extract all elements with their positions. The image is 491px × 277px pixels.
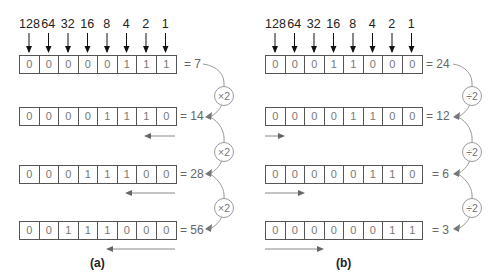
bit-cell: 0: [59, 56, 79, 73]
bit-row: 0 0 0 0 1 1 0 0: [265, 107, 423, 126]
bit-cell: 0: [325, 166, 345, 183]
bit-cell: 0: [59, 108, 79, 125]
bit-cell: 0: [20, 56, 40, 73]
bit-cell: 1: [383, 166, 403, 183]
bit-cell: 1: [98, 108, 118, 125]
bit-cell: 1: [364, 108, 384, 125]
bit-cell: 0: [325, 108, 345, 125]
bit-cell: 0: [118, 222, 138, 239]
bit-cell: 0: [344, 222, 364, 239]
multiply-by-two-icon: ×2: [214, 198, 234, 218]
bit-cell: 0: [79, 56, 99, 73]
bit-cell: 0: [403, 166, 423, 183]
bit-row: 0 0 0 1 1 1 0 0: [19, 165, 177, 184]
bit-row: 0 0 0 0 0 1 1 0: [265, 165, 423, 184]
bit-cell: 0: [266, 108, 286, 125]
bit-cell: 1: [403, 222, 423, 239]
decimal-value: = 24: [426, 55, 450, 74]
bit-cell: 0: [20, 166, 40, 183]
bit-row: 0 0 0 1 1 0 0 0: [265, 55, 423, 74]
caption-a: (a): [90, 256, 105, 270]
bit-cell: 0: [305, 56, 325, 73]
bit-cell: 0: [79, 108, 99, 125]
bit-cell: 0: [157, 166, 177, 183]
bit-cell: 1: [118, 56, 138, 73]
bit-cell: 0: [286, 222, 306, 239]
divide-by-two-icon: ÷2: [462, 142, 482, 162]
caption-b: (b): [336, 256, 351, 270]
bit-cell: 0: [98, 56, 118, 73]
bit-cell: 1: [79, 222, 99, 239]
bit-cell: 0: [266, 166, 286, 183]
bit-cell: 0: [325, 222, 345, 239]
bit-cell: 1: [59, 222, 79, 239]
bit-cell: 0: [137, 166, 157, 183]
bit-row: 0 0 0 0 0 1 1 1: [19, 55, 177, 74]
bit-cell: 0: [40, 166, 60, 183]
decimal-value: = 3: [432, 221, 449, 240]
panel-b-divide: 128 64 32 16 8 4 2 1: [246, 0, 491, 277]
bit-cell: 1: [157, 56, 177, 73]
bit-cell: 1: [344, 108, 364, 125]
decimal-value: = 14: [180, 107, 204, 126]
bit-cell: 1: [137, 56, 157, 73]
bit-cell: 0: [305, 222, 325, 239]
bit-cell: 0: [40, 108, 60, 125]
bit-cell: 1: [79, 166, 99, 183]
bit-cell: 0: [40, 56, 60, 73]
bit-cell: 0: [403, 56, 423, 73]
divide-by-two-icon: ÷2: [462, 86, 482, 106]
bit-cell: 0: [20, 222, 40, 239]
divide-by-two-icon: ÷2: [462, 198, 482, 218]
bit-cell: 0: [266, 222, 286, 239]
bit-cell: 0: [286, 56, 306, 73]
bit-cell: 0: [383, 108, 403, 125]
bit-row: 0 0 1 1 1 0 0 0: [19, 221, 177, 240]
bit-cell: 1: [98, 166, 118, 183]
bit-cell: 0: [20, 108, 40, 125]
bit-cell: 0: [403, 108, 423, 125]
bit-cell: 0: [157, 222, 177, 239]
decimal-value: = 28: [180, 165, 204, 184]
bit-cell: 0: [305, 166, 325, 183]
bit-cell: 0: [344, 166, 364, 183]
multiply-by-two-icon: ×2: [214, 142, 234, 162]
bit-cell: 0: [286, 108, 306, 125]
bit-cell: 0: [137, 222, 157, 239]
bit-cell: 0: [364, 222, 384, 239]
bit-cell: 0: [59, 166, 79, 183]
bit-cell: 1: [364, 166, 384, 183]
bit-cell: 0: [305, 108, 325, 125]
bit-cell: 0: [364, 56, 384, 73]
bit-cell: 1: [383, 222, 403, 239]
decimal-value: = 7: [184, 55, 201, 74]
decimal-value: = 12: [426, 107, 450, 126]
bit-cell: 0: [40, 222, 60, 239]
bit-row: 0 0 0 0 0 0 1 1: [265, 221, 423, 240]
bit-cell: 1: [325, 56, 345, 73]
bit-cell: 1: [137, 108, 157, 125]
bit-row: 0 0 0 0 1 1 1 0: [19, 107, 177, 126]
bit-cell: 1: [344, 56, 364, 73]
bit-cell: 0: [286, 166, 306, 183]
decimal-value: = 6: [432, 165, 449, 184]
bit-cell: 1: [118, 108, 138, 125]
bit-cell: 1: [118, 166, 138, 183]
bit-cell: 0: [157, 108, 177, 125]
bit-cell: 1: [98, 222, 118, 239]
panel-a-multiply: 128 64 32 16 8 4 2 1: [0, 0, 245, 277]
multiply-by-two-icon: ×2: [214, 86, 234, 106]
bit-cell: 0: [266, 56, 286, 73]
decimal-value: = 56: [180, 221, 204, 240]
bit-cell: 0: [383, 56, 403, 73]
